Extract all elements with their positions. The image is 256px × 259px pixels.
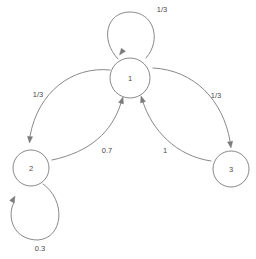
edge-1-to-2[interactable]: 1/3 [27, 70, 110, 144]
edge-3-to-1[interactable]: 1 [139, 95, 211, 161]
node-state-1[interactable]: 1 [110, 58, 150, 98]
node-3-label: 3 [229, 165, 233, 174]
edge-2-to-2[interactable]: 0.3 [10, 184, 59, 253]
edge-1-to-1[interactable]: 1/3 [108, 5, 168, 60]
arrowhead-1-3 [228, 141, 234, 148]
edge-path-1-3 [153, 68, 230, 141]
node-1-label: 1 [128, 74, 132, 83]
edge-path-3-1 [143, 102, 211, 161]
edge-label-1-2: 1/3 [33, 90, 43, 99]
arrowhead-1-2 [27, 136, 33, 143]
edge-path-2-2 [11, 184, 59, 240]
edge-1-to-3[interactable]: 1/3 [153, 68, 234, 148]
edge-label-1-3: 1/3 [211, 91, 221, 100]
edge-label-1-1: 1/3 [157, 5, 167, 14]
edges-layer: 1/3 1/3 1/3 0.7 [10, 5, 234, 253]
arrowhead-1-1 [117, 48, 125, 56]
arrowhead-2-2 [10, 195, 18, 203]
edge-path-1-1 [108, 12, 155, 59]
edge-label-3-1: 1 [163, 146, 167, 155]
edge-path-1-2 [30, 70, 110, 136]
nodes-layer: 1 2 3 [13, 58, 249, 187]
node-state-3[interactable]: 3 [213, 151, 249, 187]
diagram-canvas: 1/3 1/3 1/3 0.7 [0, 0, 256, 259]
node-state-2[interactable]: 2 [13, 150, 49, 186]
edge-label-2-1: 0.7 [102, 146, 112, 155]
arrowhead-3-1 [139, 95, 146, 103]
edge-2-to-1[interactable]: 0.7 [52, 96, 125, 160]
node-2-label: 2 [29, 164, 33, 173]
edge-label-2-2: 0.3 [35, 244, 45, 253]
state-transition-diagram: 1/3 1/3 1/3 0.7 [0, 0, 256, 259]
